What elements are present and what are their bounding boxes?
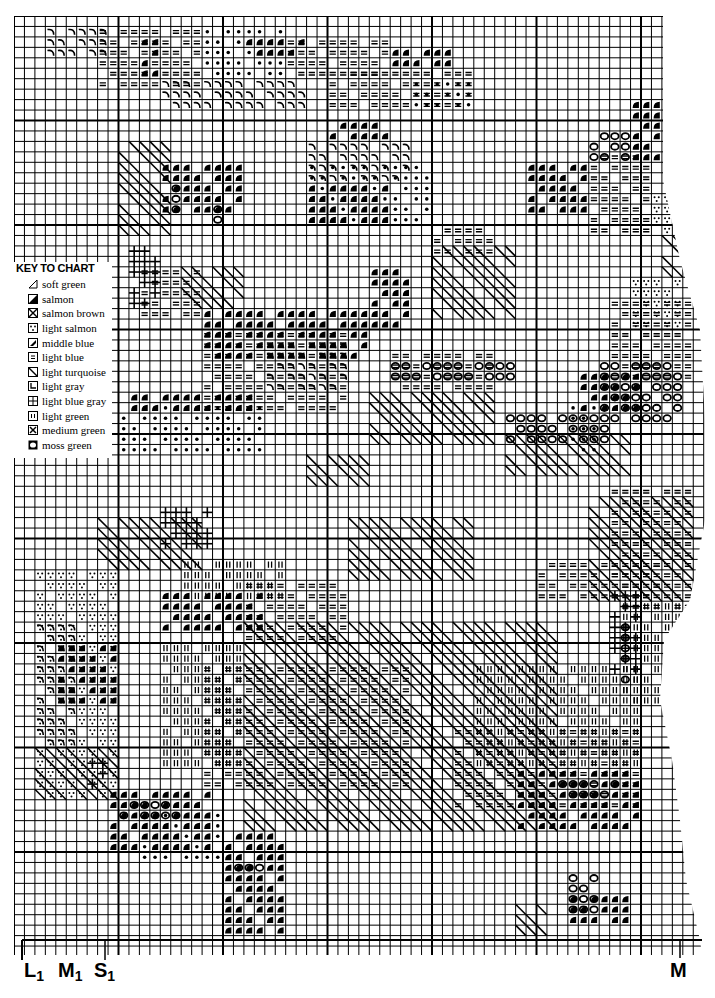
key-item-label: soft green xyxy=(42,278,86,290)
box-plus-dots-icon xyxy=(28,396,38,406)
key-item-label: light turquoise xyxy=(42,366,106,378)
half-slash-icon xyxy=(28,279,38,289)
key-item-light-gray: light gray xyxy=(14,379,112,394)
key-item-label: salmon xyxy=(42,293,74,305)
key-item-light-blue: light blue xyxy=(14,350,112,365)
key-item-middle-blue: middle blue xyxy=(14,335,112,350)
box-lines-icon xyxy=(28,352,38,362)
key-item-label: light gray xyxy=(42,380,84,392)
box-corner-icon xyxy=(28,381,38,391)
key-item-moss-green: moss green xyxy=(14,438,112,453)
chart-key: KEY TO CHART soft greensalmonsalmon brow… xyxy=(12,262,112,458)
key-item-light-salmon: light salmon xyxy=(14,321,112,336)
cross-stitch-chart xyxy=(0,0,715,998)
key-item-soft-green: soft green xyxy=(14,277,112,292)
key-item-label: salmon brown xyxy=(42,307,105,319)
half-solid-icon xyxy=(28,294,38,304)
key-item-light-blue-gray: light blue gray xyxy=(14,394,112,409)
key-item-salmon: salmon xyxy=(14,292,112,307)
key-item-label: light salmon xyxy=(42,322,97,334)
key-item-label: light green xyxy=(42,410,89,422)
box-x-icon xyxy=(28,425,38,435)
key-item-light-turquoise: light turquoise xyxy=(14,365,112,380)
key-title: KEY TO CHART xyxy=(16,262,112,275)
key-item-label: middle blue xyxy=(42,337,94,349)
key-item-label: medium green xyxy=(42,424,105,436)
key-item-salmon-brown: salmon brown xyxy=(14,306,112,321)
circle-icon xyxy=(28,440,38,450)
marker-l1: L1 xyxy=(24,960,44,986)
box-backslash-icon xyxy=(28,367,38,377)
marker-s1: S1 xyxy=(94,960,115,986)
marker-m1: M1 xyxy=(58,960,82,986)
box-dots-v-icon xyxy=(28,323,38,333)
box-x-dots-icon xyxy=(28,308,38,318)
key-item-label: light blue xyxy=(42,351,84,363)
key-item-light-green: light green xyxy=(14,408,112,423)
key-item-label: light blue gray xyxy=(42,395,106,407)
box-slash-solid-icon xyxy=(28,338,38,348)
marker-m: M xyxy=(670,960,687,980)
box-ii-icon xyxy=(28,411,38,421)
key-item-label: moss green xyxy=(42,439,92,451)
key-item-medium-green: medium green xyxy=(14,423,112,438)
